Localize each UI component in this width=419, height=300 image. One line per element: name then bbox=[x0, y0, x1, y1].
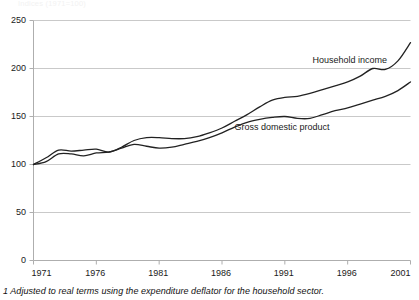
series-line-gross-domestic-product bbox=[34, 82, 411, 165]
x-tick-1971: 1971 bbox=[32, 269, 52, 278]
series-label-household-income: Household income bbox=[312, 56, 387, 65]
x-tick-1986: 1986 bbox=[211, 269, 231, 278]
x-tick-1991: 1991 bbox=[274, 269, 294, 278]
y-tick-250: 250 bbox=[0, 16, 26, 25]
y-tick-50: 50 bbox=[0, 208, 26, 217]
x-tick-1996: 1996 bbox=[337, 269, 357, 278]
y-tick-0: 0 bbox=[0, 256, 26, 265]
series-label-gross-domestic-product: Gross domestic product bbox=[235, 123, 330, 132]
gridlines bbox=[34, 21, 411, 213]
y-tick-100: 100 bbox=[0, 160, 26, 169]
chart-plot-area bbox=[0, 0, 419, 300]
y-tick-200: 200 bbox=[0, 64, 26, 73]
y-tick-150: 150 bbox=[0, 112, 26, 121]
chart-figure: Indices (1971=100) 050100150200250 19711… bbox=[0, 0, 419, 300]
x-tick-1976: 1976 bbox=[85, 269, 105, 278]
chart-footnote: 1 Adjusted to real terms using the expen… bbox=[3, 286, 324, 296]
x-tick-1981: 1981 bbox=[148, 269, 168, 278]
x-tick-2001: 2001 bbox=[391, 269, 411, 278]
